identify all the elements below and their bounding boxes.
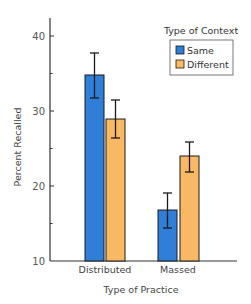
y-tick-label-20: 20 xyxy=(32,181,45,192)
x-axis-title: Type of Practice xyxy=(103,284,179,295)
y-tick-label-10: 10 xyxy=(32,256,45,267)
y-axis-title: Percent Recalled xyxy=(12,108,23,187)
bar-group-distributed xyxy=(85,53,125,261)
x-category-label-massed: Massed xyxy=(160,264,196,275)
legend-label-different: Different xyxy=(187,59,229,70)
bar-chart: 40 30 20 10 Percent Recalled xyxy=(0,0,251,304)
legend-title: Type of Context xyxy=(163,25,239,36)
bar-distributed-same xyxy=(85,75,104,261)
bar-group-massed xyxy=(158,142,199,261)
legend-swatch-same xyxy=(176,46,184,54)
y-tick-label-30: 30 xyxy=(32,106,45,117)
bar-distributed-different xyxy=(106,119,125,261)
legend-label-same: Same xyxy=(187,45,214,56)
legend-swatch-different xyxy=(176,60,184,68)
legend: Type of Context Same Different xyxy=(163,25,239,75)
y-tick-label-40: 40 xyxy=(32,31,45,42)
x-category-label-distributed: Distributed xyxy=(79,264,132,275)
